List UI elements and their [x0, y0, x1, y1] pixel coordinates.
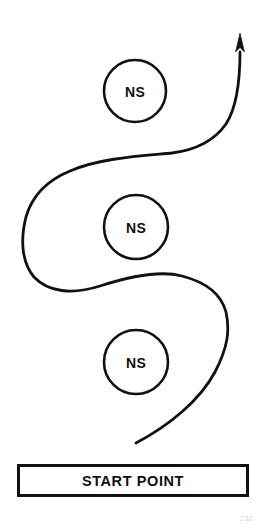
route-arrow-head-icon — [236, 33, 245, 52]
node-ns-top: NS — [104, 60, 166, 122]
route-diagram-canvas: NS NS NS START POINT 232 — [0, 0, 263, 524]
diagram-root: NS NS NS START POINT 232 — [0, 0, 263, 524]
node-label: NS — [125, 84, 145, 100]
node-label: NS — [126, 355, 146, 371]
node-ns-middle: NS — [104, 195, 168, 259]
node-ns-bottom: NS — [104, 330, 168, 394]
node-label: NS — [126, 220, 146, 236]
start-point-box: START POINT — [19, 466, 248, 496]
start-point-label: START POINT — [82, 473, 184, 489]
page-number-mark: 232 — [239, 514, 253, 523]
